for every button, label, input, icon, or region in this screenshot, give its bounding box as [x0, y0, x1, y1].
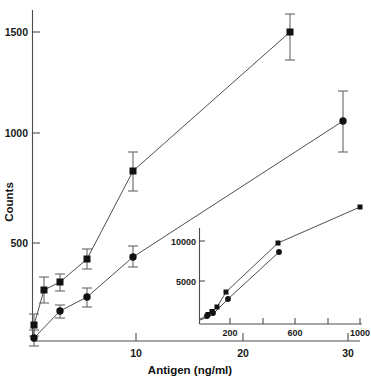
main-x-ticklabel-10: 10	[130, 347, 142, 359]
main-series-circles	[29, 91, 348, 346]
data-point-circle	[83, 293, 90, 300]
data-point-square	[41, 287, 48, 294]
data-point-square	[57, 279, 64, 286]
inset-x-ticklabel-200: 200	[222, 328, 237, 338]
inset-squares-connector-line	[200, 207, 360, 319]
squares-connector-line	[34, 32, 290, 325]
data-point-square	[130, 168, 137, 175]
inset-data-point-circle	[204, 313, 210, 319]
inset-data-point-circle	[225, 296, 231, 302]
inset-data-point-square	[358, 205, 363, 210]
main-x-ticklabel-20: 20	[237, 347, 249, 359]
data-point-circle	[56, 307, 63, 314]
data-point-square	[287, 29, 294, 36]
main-x-ticklabel-30: 30	[342, 347, 354, 359]
inset-x-ticklabel-600: 600	[287, 328, 302, 338]
inset-plot: 10000 5000 200 600 1000	[171, 205, 370, 339]
circles-errorbars	[29, 91, 348, 346]
data-point-circle	[339, 117, 346, 124]
main-y-ticklabel-1000: 1000	[5, 127, 29, 139]
inset-y-ticklabel-5000: 5000	[176, 277, 196, 287]
main-y-axis: 1500 1000 500 Counts	[3, 10, 40, 341]
main-y-ticklabel-1500: 1500	[5, 26, 29, 38]
x-axis-title: Antigen (ng/ml)	[148, 364, 232, 376]
main-series-squares	[29, 14, 295, 336]
inset-y-ticklabel-10000: 10000	[171, 237, 196, 247]
figure-container: 1500 1000 500 Counts 10 20 30 Antigen (n…	[0, 0, 371, 378]
circles-connector-line	[34, 121, 343, 338]
inset-data-point-square	[276, 241, 281, 246]
inset-data-point-square	[224, 290, 229, 295]
data-point-circle	[129, 253, 136, 260]
inset-x-axis: 200 600 1000	[200, 318, 371, 338]
y-axis-title: Counts	[3, 182, 15, 222]
inset-series-squares	[200, 205, 363, 320]
data-point-circle	[30, 334, 37, 341]
inset-data-point-circle	[210, 310, 216, 316]
inset-y-axis: 10000 5000	[171, 228, 205, 324]
inset-x-ticklabel-1000: 1000	[350, 328, 370, 338]
circles-markers	[30, 117, 346, 341]
inset-data-point-circle	[276, 249, 282, 255]
data-point-square	[31, 322, 38, 329]
main-x-axis: 10 20 30 Antigen (ng/ml)	[33, 333, 361, 376]
antigen-counts-chart: 1500 1000 500 Counts 10 20 30 Antigen (n…	[0, 0, 371, 378]
data-point-square	[84, 256, 91, 263]
main-y-ticklabel-500: 500	[10, 237, 28, 249]
